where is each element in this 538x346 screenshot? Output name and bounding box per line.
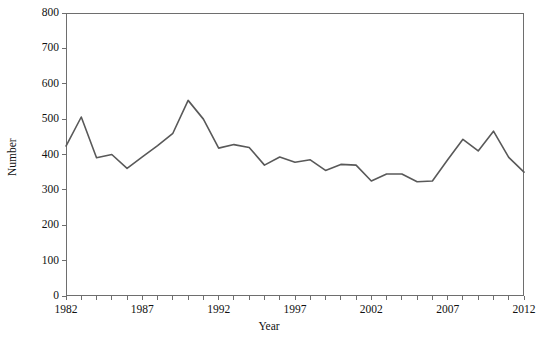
x-axis-title: Year — [0, 320, 538, 332]
x-tick-mark — [81, 296, 82, 300]
y-tick-label: 200 — [42, 217, 59, 232]
x-tick-mark — [96, 296, 97, 300]
y-axis-title: Number — [6, 127, 22, 187]
x-tick-mark — [493, 296, 494, 300]
x-tick-mark — [447, 296, 448, 300]
y-tick-label: 100 — [42, 253, 59, 268]
x-tick-mark — [218, 296, 219, 300]
x-tick-mark — [188, 296, 189, 300]
x-tick-mark — [264, 296, 265, 300]
y-tick-mark — [62, 154, 66, 155]
x-tick-mark — [462, 296, 463, 300]
x-tick-mark — [157, 296, 158, 300]
x-tick-label: 1997 — [284, 302, 307, 317]
y-tick-label: 400 — [42, 147, 59, 162]
x-tick-mark — [310, 296, 311, 300]
x-tick-mark — [478, 296, 479, 300]
x-tick-mark — [356, 296, 357, 300]
x-tick-mark — [401, 296, 402, 300]
x-tick-mark — [66, 296, 67, 300]
x-tick-mark — [524, 296, 525, 300]
x-tick-mark — [127, 296, 128, 300]
y-tick-label: 500 — [42, 111, 59, 126]
x-tick-mark — [340, 296, 341, 300]
x-tick-mark — [325, 296, 326, 300]
x-tick-label: 2007 — [436, 302, 459, 317]
x-tick-label: 2012 — [513, 302, 536, 317]
y-tick-mark — [62, 13, 66, 14]
x-tick-mark — [386, 296, 387, 300]
y-tick-mark — [62, 225, 66, 226]
x-tick-mark — [233, 296, 234, 300]
y-tick-label: 300 — [42, 182, 59, 197]
x-tick-label: 1982 — [55, 302, 78, 317]
x-tick-mark — [371, 296, 372, 300]
y-tick-mark — [62, 119, 66, 120]
x-tick-mark — [142, 296, 143, 300]
line-chart: 0100200300400500600700800 19821987199219… — [0, 0, 538, 346]
plot-area-frame — [66, 13, 524, 296]
x-tick-label: 1992 — [207, 302, 230, 317]
y-tick-label: 600 — [42, 76, 59, 91]
y-tick-label: 800 — [42, 5, 59, 20]
y-tick-mark — [62, 189, 66, 190]
x-tick-label: 2002 — [360, 302, 383, 317]
y-tick-mark — [62, 83, 66, 84]
y-tick-mark — [62, 48, 66, 49]
y-tick-mark — [62, 260, 66, 261]
x-tick-mark — [295, 296, 296, 300]
x-tick-label: 1987 — [131, 302, 154, 317]
y-tick-label: 700 — [42, 40, 59, 55]
x-tick-mark — [249, 296, 250, 300]
x-tick-mark — [432, 296, 433, 300]
x-tick-mark — [279, 296, 280, 300]
x-tick-mark — [203, 296, 204, 300]
x-tick-mark — [417, 296, 418, 300]
x-tick-mark — [111, 296, 112, 300]
x-tick-mark — [172, 296, 173, 300]
x-tick-mark — [508, 296, 509, 300]
